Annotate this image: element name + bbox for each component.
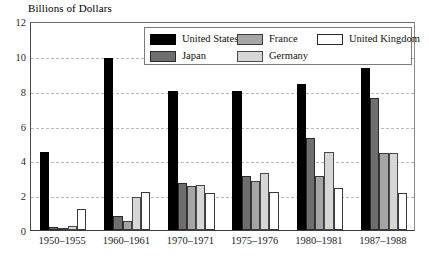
bar: [141, 192, 150, 230]
legend-swatch-icon: [237, 34, 263, 45]
x-tick-label: 1970–1971: [167, 235, 214, 246]
bar: [187, 186, 196, 230]
bar: [58, 228, 67, 230]
y-tick-label: 6: [21, 122, 26, 133]
bar: [315, 176, 324, 230]
bar: [370, 98, 379, 230]
bar: [232, 91, 241, 230]
bar: [269, 192, 278, 230]
y-tick-label: 12: [16, 18, 27, 29]
bar: [297, 84, 306, 230]
bar: [334, 188, 343, 230]
bar: [77, 209, 86, 230]
bar: [40, 152, 49, 230]
x-tick-label: 1980–1981: [295, 235, 342, 246]
bar: [251, 181, 260, 230]
bar: [205, 193, 214, 230]
legend-entry: France: [237, 31, 308, 47]
chart-legend: United StatesJapan FranceGermany United …: [144, 27, 412, 65]
legend-column-1: United StatesJapan: [150, 31, 238, 65]
bar: [49, 227, 58, 230]
bar: [389, 153, 398, 230]
bar: [123, 221, 132, 230]
bar: [379, 153, 388, 230]
bar-group: [40, 23, 86, 230]
y-tick-label: 2: [21, 192, 26, 203]
bar: [398, 193, 407, 230]
legend-swatch-icon: [237, 51, 263, 62]
legend-entry: Japan: [150, 48, 238, 64]
legend-label: France: [269, 34, 298, 45]
bar: [132, 197, 141, 230]
legend-entry: United Kingdom: [317, 31, 420, 47]
legend-swatch-icon: [150, 34, 176, 45]
bar: [113, 216, 122, 230]
x-tick-label: 1975–1976: [231, 235, 278, 246]
bar: [178, 183, 187, 230]
y-tick-label: 0: [21, 227, 26, 238]
y-axis-title: Billions of Dollars: [28, 2, 112, 14]
bar: [260, 173, 269, 230]
bar: [196, 185, 205, 230]
legend-column-3: United Kingdom: [317, 31, 420, 48]
y-tick-label: 4: [21, 157, 26, 168]
legend-entry: United States: [150, 31, 238, 47]
x-tick-label: 1987–1988: [359, 235, 406, 246]
legend-label: United States: [182, 34, 238, 45]
bar: [168, 91, 177, 230]
legend-swatch-icon: [317, 34, 343, 45]
legend-swatch-icon: [150, 51, 176, 62]
x-tick-label: 1960–1961: [103, 235, 150, 246]
legend-label: United Kingdom: [349, 34, 420, 45]
bar: [242, 176, 251, 230]
bar-chart: Billions of Dollars 024681012 1950–19551…: [0, 0, 429, 265]
x-tick-label: 1950–1955: [38, 235, 85, 246]
y-tick-label: 8: [21, 87, 26, 98]
legend-entry: Germany: [237, 48, 308, 64]
bar: [104, 58, 113, 230]
bar: [361, 68, 370, 230]
y-tick-label: 10: [16, 53, 27, 64]
bar: [306, 138, 315, 230]
legend-label: Germany: [269, 51, 308, 62]
bar: [324, 152, 333, 230]
legend-column-2: FranceGermany: [237, 31, 308, 65]
bar: [68, 226, 77, 230]
legend-label: Japan: [182, 51, 206, 62]
